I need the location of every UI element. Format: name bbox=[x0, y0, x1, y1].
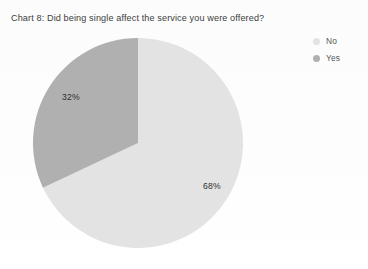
legend-item-no[interactable]: No bbox=[313, 33, 365, 50]
legend-label-no: No bbox=[326, 37, 337, 45]
chart-legend: No Yes bbox=[313, 33, 365, 67]
circle-marker-icon-yes bbox=[313, 55, 320, 62]
legend-label-yes: Yes bbox=[326, 54, 340, 62]
pie-label-yes: 32% bbox=[62, 92, 80, 102]
legend-item-yes[interactable]: Yes bbox=[313, 50, 365, 67]
pie-label-no: 68% bbox=[203, 181, 221, 191]
circle-marker-icon-no bbox=[313, 38, 320, 45]
chart-page: Chart 8: Did being single affect the ser… bbox=[0, 0, 368, 269]
